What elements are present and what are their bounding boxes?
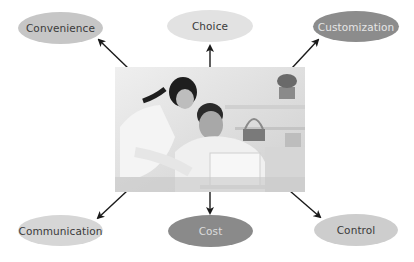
node-label: Control [337,224,376,236]
node-customization: Customization [313,11,399,42]
node-label: Convenience [26,22,95,34]
node-label: Communication [18,225,102,237]
arrow-to-control [290,191,320,217]
photo-illustration [115,67,305,192]
center-photo [115,67,305,192]
arrow-to-customization [292,40,318,68]
arrow-to-convenience [99,40,128,68]
node-cost: Cost [168,215,253,247]
node-label: Choice [192,20,228,32]
node-communication: Communication [18,215,103,246]
node-choice: Choice [167,10,253,42]
node-control: Control [314,214,398,246]
node-label: Cost [199,225,223,237]
arrow-to-communication [98,191,127,218]
node-convenience: Convenience [18,12,103,44]
node-label: Customization [318,21,395,33]
